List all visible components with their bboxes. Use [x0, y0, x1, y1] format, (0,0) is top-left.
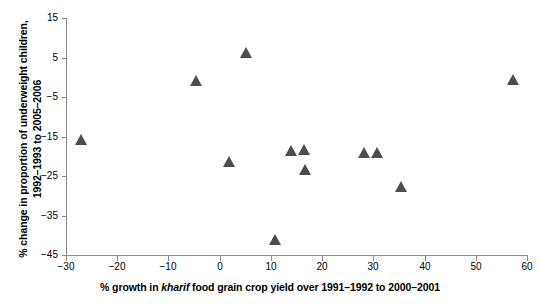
data-point-marker	[75, 134, 87, 145]
x-axis-title-before: % growth in	[100, 281, 161, 293]
data-point-marker	[285, 145, 297, 156]
scatter-plot-figure: % change in proportion of underweight ch…	[0, 0, 540, 306]
plot-data-area	[0, 0, 540, 306]
data-point-marker	[371, 147, 383, 158]
data-point-marker	[507, 74, 519, 85]
x-axis-title: % growth in kharif food grain crop yield…	[0, 281, 540, 293]
data-point-marker	[223, 156, 235, 167]
data-point-marker	[240, 47, 252, 58]
data-point-marker	[395, 181, 407, 192]
x-axis-title-after: food grain crop yield over 1991–1992 to …	[189, 281, 440, 293]
data-point-marker	[298, 144, 310, 155]
data-point-marker	[358, 147, 370, 158]
data-point-marker	[190, 75, 202, 86]
data-point-marker	[299, 164, 311, 175]
x-axis-title-italic: kharif	[161, 281, 189, 293]
data-point-marker	[269, 234, 281, 245]
